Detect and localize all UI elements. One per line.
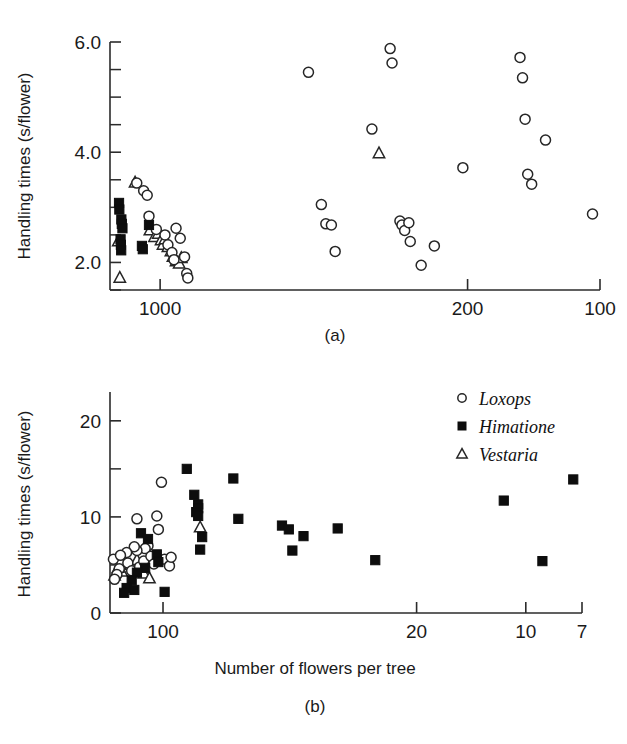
data-point-himatione <box>138 245 147 254</box>
data-point-loxops <box>183 273 193 283</box>
data-point-loxops <box>316 200 326 210</box>
data-point-loxops <box>152 511 162 521</box>
data-point-himatione <box>160 587 169 596</box>
x-tick-label: 200 <box>452 298 484 319</box>
data-point-loxops <box>385 44 395 54</box>
data-point-himatione <box>130 585 139 594</box>
x-tick-label: 7 <box>577 621 588 642</box>
x-tick-label: 20 <box>406 621 427 642</box>
y-tick-label: 10 <box>80 507 101 528</box>
data-point-loxops <box>520 114 530 124</box>
scatter-plot-b: 0102010020107Handling times (s/flower)Nu… <box>0 372 627 744</box>
data-point-himatione <box>198 532 207 541</box>
data-point-loxops <box>303 67 313 77</box>
data-point-himatione <box>143 534 152 543</box>
data-point-loxops <box>518 73 528 83</box>
data-point-himatione <box>569 475 578 484</box>
panel-b-caption: (b) <box>305 697 326 716</box>
legend-filled-square-icon <box>458 422 466 430</box>
data-point-loxops <box>429 241 439 251</box>
data-point-himatione <box>234 514 243 523</box>
y-tick-label: 4.0 <box>75 142 101 163</box>
data-point-himatione <box>194 511 203 520</box>
legend-item-himatione[interactable]: Himatione <box>458 417 555 437</box>
y-tick-label: 6.0 <box>75 32 101 53</box>
panel-b-x-axis-title: Number of flowers per tree <box>214 659 415 678</box>
legend-label: Vestaria <box>479 445 538 465</box>
data-point-himatione <box>117 246 126 255</box>
x-tick-label: 1000 <box>139 298 181 319</box>
data-point-loxops <box>160 230 170 240</box>
data-point-vestaria <box>373 147 384 158</box>
series-himatione <box>120 464 578 597</box>
data-point-himatione <box>288 546 297 555</box>
panel-b: 0102010020107Handling times (s/flower)Nu… <box>0 372 627 744</box>
data-point-loxops <box>326 220 336 230</box>
data-point-himatione <box>371 556 380 565</box>
scatter-plot-a: 2.04.06.01000200100Handling times (s/flo… <box>0 0 627 372</box>
x-tick-label: 10 <box>515 621 536 642</box>
data-point-loxops <box>458 163 468 173</box>
data-point-loxops <box>416 260 426 270</box>
data-point-himatione <box>299 532 308 541</box>
data-point-himatione <box>182 464 191 473</box>
data-point-loxops <box>404 218 414 228</box>
data-point-loxops <box>541 135 551 145</box>
data-point-vestaria <box>194 521 205 532</box>
legend: LoxopsHimationeVestaria <box>457 389 555 465</box>
data-point-himatione <box>144 220 153 229</box>
data-point-himatione <box>118 224 127 233</box>
legend-open-triangle-icon <box>457 449 467 458</box>
data-point-himatione <box>115 205 124 214</box>
legend-open-circle-icon <box>458 394 466 402</box>
legend-item-vestaria[interactable]: Vestaria <box>457 445 538 465</box>
data-point-loxops <box>144 211 154 221</box>
data-point-loxops <box>171 223 181 233</box>
data-point-himatione <box>499 496 508 505</box>
y-tick-label: 0 <box>90 603 101 624</box>
data-point-himatione <box>120 588 129 597</box>
legend-label: Himatione <box>478 417 555 437</box>
y-tick-label: 2.0 <box>75 252 101 273</box>
x-tick-label: 100 <box>584 298 616 319</box>
data-point-loxops <box>175 233 185 243</box>
data-point-himatione <box>190 490 199 499</box>
data-point-vestaria <box>114 272 125 283</box>
data-point-loxops <box>156 477 166 487</box>
panel-a-y-axis-title: Handling times (s/flower) <box>15 72 34 259</box>
legend-label: Loxops <box>478 389 531 409</box>
panel-b-y-axis-title: Handling times (s/flower) <box>15 410 34 597</box>
panel-a-caption: (a) <box>325 326 346 345</box>
data-point-loxops <box>527 179 537 189</box>
data-point-loxops <box>132 514 142 524</box>
data-point-loxops <box>523 169 533 179</box>
data-point-loxops <box>588 209 598 219</box>
data-point-loxops <box>515 52 525 62</box>
data-point-himatione <box>333 524 342 533</box>
data-point-loxops <box>110 574 120 584</box>
data-point-himatione <box>538 557 547 566</box>
data-point-loxops <box>166 552 176 562</box>
data-point-himatione <box>154 557 163 566</box>
data-point-loxops <box>142 190 152 200</box>
series-himatione <box>114 198 153 255</box>
data-point-loxops <box>405 237 415 247</box>
data-point-loxops <box>153 524 163 534</box>
data-point-loxops <box>180 252 190 262</box>
x-tick-label: 100 <box>147 621 179 642</box>
legend-item-loxops[interactable]: Loxops <box>458 389 531 409</box>
data-point-loxops <box>387 58 397 68</box>
data-point-himatione <box>229 474 238 483</box>
data-point-loxops <box>330 246 340 256</box>
panel-a: 2.04.06.01000200100Handling times (s/flo… <box>0 0 627 372</box>
plot-area: 2.04.06.01000200100 <box>75 32 616 319</box>
y-tick-label: 20 <box>80 411 101 432</box>
data-point-loxops <box>169 255 179 265</box>
data-point-loxops <box>367 124 377 134</box>
data-point-himatione <box>196 545 205 554</box>
series-loxops <box>132 44 598 283</box>
data-point-himatione <box>284 525 293 534</box>
